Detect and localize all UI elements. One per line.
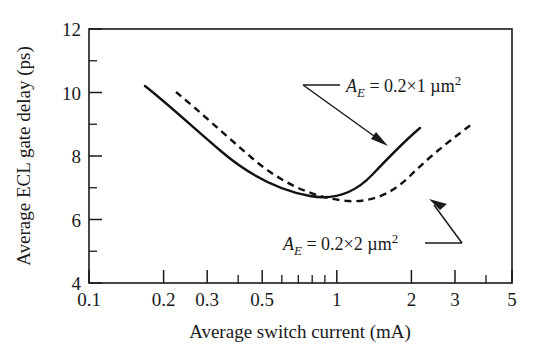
x-tick-label: 2 (407, 289, 417, 310)
annotation-solid-superscript: 2 (455, 73, 462, 88)
y-tick-label: 10 (62, 83, 81, 104)
annotation-dashed-superscript: 2 (392, 231, 399, 246)
y-axis-tick-labels: 4 6 8 10 12 (62, 19, 82, 294)
x-tick-label: 5 (507, 289, 517, 310)
y-axis-major-ticks (89, 29, 102, 283)
x-tick-label: 0.1 (77, 289, 101, 310)
series-line-dashed (176, 92, 472, 201)
y-axis-title: Average ECL gate delay (ps) (13, 46, 35, 265)
x-tick-label: 0.2 (152, 289, 176, 310)
x-axis-tick-labels: 0.1 0.2 0.3 0.5 1 2 3 5 (77, 289, 517, 310)
x-axis-title: Average switch current (mA) (189, 321, 411, 343)
x-tick-label: 0.5 (250, 289, 274, 310)
y-tick-label: 8 (72, 146, 82, 167)
y-tick-label: 6 (72, 210, 82, 231)
annotation-solid-rest: = 0.2×1 µm (365, 76, 455, 96)
annotation-dashed-leader (425, 199, 462, 243)
x-axis-major-ticks (89, 270, 512, 283)
x-tick-label: 1 (332, 289, 342, 310)
x-tick-label: 3 (450, 289, 460, 310)
figure-container: 4 6 8 10 12 0.1 0. (0, 0, 551, 359)
annotation-solid-subscript: E (356, 85, 365, 100)
annotation-label-dashed: AE = 0.2×2 µm2 (282, 231, 398, 258)
ecl-gate-delay-chart: 4 6 8 10 12 0.1 0. (0, 0, 551, 359)
annotation-label-solid: AE = 0.2×1 µm2 (345, 73, 461, 100)
y-tick-label: 12 (62, 19, 81, 40)
x-tick-label: 0.3 (195, 289, 219, 310)
x-axis-minor-ticks (238, 275, 486, 283)
annotation-dashed-subscript: E (293, 243, 302, 258)
annotation-dashed-rest: = 0.2×2 µm (302, 234, 392, 254)
